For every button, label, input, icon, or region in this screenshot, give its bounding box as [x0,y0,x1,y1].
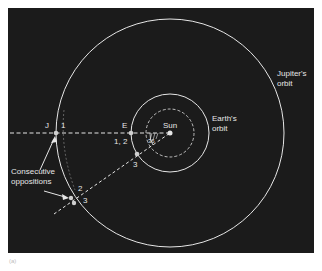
arrow-to-j2 [44,191,65,197]
earth-orbit-label-1: Earth's [212,114,237,123]
jupiter-dot-3 [72,201,76,205]
sun-label: Sun [163,121,177,130]
jupiter-position-2: 2 [78,184,82,193]
jupiter-position-3: 3 [83,196,87,205]
jupiter-position-1: 1 [61,121,65,130]
consecutive-oppositions-label-1: Consecutive [11,167,55,176]
angle-label: 36 [148,137,155,146]
jupiter-orbit-label-2: orbit [277,79,293,88]
earth-position-3: 3 [133,160,137,169]
sun-dot [168,131,173,136]
arrow-to-j1 [40,139,54,170]
earth-dot-12 [129,131,134,136]
jupiter-dot-1 [54,131,59,136]
earth-label: E [122,121,127,130]
orbit-diagram [0,0,322,271]
jupiter-orbit-label-1: Jupiter's [277,69,307,78]
earth-dot-3 [135,152,140,157]
earth-position-12: 1, 2 [114,137,127,146]
figure-caption: (a) [9,258,16,264]
jupiter-label: J [45,121,49,130]
earth-orbit-label-2: orbit [212,124,228,133]
jupiter-dot-2 [69,196,73,200]
consecutive-oppositions-label-2: oppositions [11,177,51,186]
